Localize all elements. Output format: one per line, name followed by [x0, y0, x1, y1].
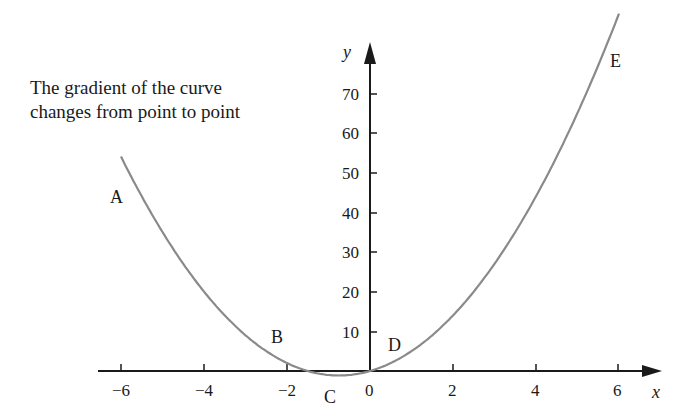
- point-label-b: B: [271, 327, 283, 347]
- point-label-a: A: [110, 187, 123, 207]
- x-tick-label: 0: [365, 381, 374, 400]
- y-tick-label: 50: [342, 164, 359, 183]
- y-tick-label: 40: [342, 204, 359, 223]
- y-tick-labels: 10 20 30 40 50 60 70: [342, 85, 359, 342]
- x-tick-label: 6: [613, 381, 622, 400]
- x-tick-label: −4: [195, 381, 214, 400]
- x-tick-labels: −6 −4 −2 0 2 4 6: [112, 381, 622, 400]
- x-tick-label: 4: [531, 381, 540, 400]
- y-tick-label: 60: [342, 124, 359, 143]
- x-axis-label: x: [651, 382, 660, 402]
- y-tick-label: 70: [342, 85, 359, 104]
- y-tick-label: 20: [342, 283, 359, 302]
- x-tick-label: 2: [448, 381, 457, 400]
- y-axis-arrow-icon: [364, 42, 376, 64]
- point-label-c: C: [324, 387, 336, 407]
- y-tick-label: 10: [342, 323, 359, 342]
- point-label-d: D: [388, 335, 401, 355]
- x-tick-label: −6: [112, 381, 130, 400]
- x-tick-label: −2: [278, 381, 296, 400]
- y-tick-label: 30: [342, 243, 359, 262]
- y-axis-label: y: [341, 42, 351, 62]
- point-label-e: E: [610, 51, 621, 71]
- chart: −6 −4 −2 0 2 4 6 x 10 20 30 40 50 60 70 …: [0, 0, 699, 418]
- y-ticks: [370, 94, 377, 332]
- x-axis-arrow-icon: [642, 365, 662, 377]
